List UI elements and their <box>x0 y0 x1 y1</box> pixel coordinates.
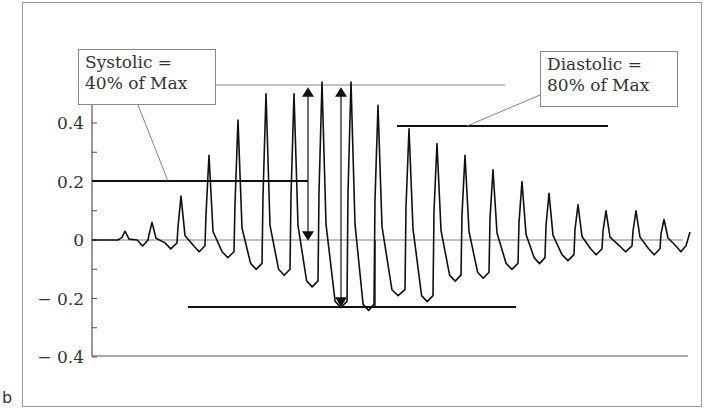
y-tick-label: 0 <box>73 230 84 250</box>
axes: 0.40.20− 0.2− 0.4 <box>37 105 688 367</box>
systolic-leader <box>138 105 168 181</box>
y-tick-label: 0.4 <box>57 113 84 133</box>
waveform-trace <box>92 82 690 310</box>
y-tick-label: − 0.2 <box>37 289 84 309</box>
y-tick-label: − 0.4 <box>37 347 84 367</box>
systolic-callout-line2: 40% of Max <box>85 73 209 94</box>
diastolic-leader <box>467 95 540 126</box>
y-tick-label: 0.2 <box>57 172 84 192</box>
diastolic-callout: Diastolic = 80% of Max <box>540 51 678 107</box>
diastolic-callout-line2: 80% of Max <box>547 75 671 96</box>
waveform-path <box>92 82 690 310</box>
systolic-callout-line1: Systolic = <box>85 52 209 73</box>
diastolic-callout-line1: Diastolic = <box>547 54 671 75</box>
systolic-callout: Systolic = 40% of Max <box>78 49 216 105</box>
